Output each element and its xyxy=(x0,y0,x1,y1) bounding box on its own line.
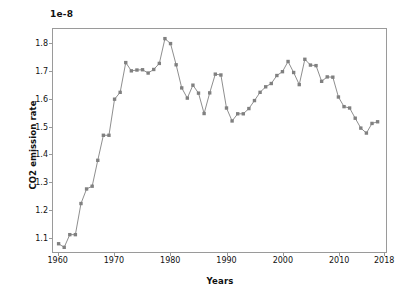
x-tick-mark xyxy=(339,253,340,256)
data-point-marker xyxy=(286,60,289,63)
data-point-marker xyxy=(96,159,99,162)
y-tick-mark xyxy=(49,71,52,72)
x-axis-title: Years xyxy=(52,276,388,286)
data-point-marker xyxy=(169,42,172,45)
data-point-marker xyxy=(63,246,66,249)
x-tick-label: 1990 xyxy=(216,256,236,265)
chart-figure: 1e-8 CO2 emission rate 1.11.21.31.41.51.… xyxy=(0,0,403,297)
x-tick-label: 2018 xyxy=(374,256,394,265)
data-point-marker xyxy=(225,106,228,109)
x-tick-mark xyxy=(58,253,59,256)
x-tick-label: 2010 xyxy=(329,256,349,265)
data-point-marker xyxy=(236,112,239,115)
co2-emission-line xyxy=(59,39,378,248)
data-point-marker xyxy=(214,72,217,75)
data-point-marker xyxy=(74,233,77,236)
y-tick-label: 1.8 xyxy=(35,39,48,48)
data-point-marker xyxy=(208,91,211,94)
data-point-marker xyxy=(365,131,368,134)
line-series-svg xyxy=(53,29,386,252)
y-tick-mark xyxy=(49,43,52,44)
data-point-marker xyxy=(152,68,155,71)
y-tick-mark xyxy=(49,127,52,128)
data-point-marker xyxy=(270,82,273,85)
y-tick-label: 1.4 xyxy=(35,150,48,159)
x-tick-mark xyxy=(283,253,284,256)
data-point-marker xyxy=(309,63,312,66)
data-point-marker xyxy=(130,69,133,72)
data-point-marker xyxy=(303,58,306,61)
data-point-marker xyxy=(258,91,261,94)
axis-offset-label: 1e-8 xyxy=(50,9,73,19)
y-tick-mark xyxy=(49,182,52,183)
x-tick-mark xyxy=(384,253,385,256)
x-tick-label: 2000 xyxy=(273,256,293,265)
data-point-marker xyxy=(158,62,161,65)
data-point-marker xyxy=(141,68,144,71)
data-point-marker xyxy=(191,83,194,86)
data-point-marker xyxy=(197,91,200,94)
y-tick-mark xyxy=(49,210,52,211)
y-axis-tick-labels: 1.11.21.31.41.51.61.71.8 xyxy=(0,0,48,297)
data-point-marker xyxy=(174,63,177,66)
data-point-marker xyxy=(298,83,301,86)
y-tick-label: 1.6 xyxy=(35,94,48,103)
x-tick-mark xyxy=(114,253,115,256)
data-point-marker xyxy=(107,134,110,137)
data-point-marker xyxy=(230,119,233,122)
data-point-marker xyxy=(292,71,295,74)
data-point-marker xyxy=(68,233,71,236)
data-point-marker xyxy=(247,107,250,110)
x-tick-label: 1970 xyxy=(104,256,124,265)
data-point-marker xyxy=(326,75,329,78)
y-tick-mark xyxy=(49,154,52,155)
data-point-marker xyxy=(376,120,379,123)
x-tick-mark xyxy=(170,253,171,256)
data-point-marker xyxy=(337,95,340,98)
x-tick-label: 1980 xyxy=(160,256,180,265)
y-tick-mark xyxy=(49,99,52,100)
data-point-marker xyxy=(342,105,345,108)
data-point-marker xyxy=(320,80,323,83)
data-point-marker xyxy=(348,106,351,109)
data-point-marker xyxy=(186,96,189,99)
data-point-marker xyxy=(135,68,138,71)
data-point-marker xyxy=(90,185,93,188)
data-point-marker xyxy=(219,73,222,76)
data-point-marker xyxy=(253,99,256,102)
data-point-marker xyxy=(331,75,334,78)
data-point-marker xyxy=(354,117,357,120)
y-tick-label: 1.1 xyxy=(35,233,48,242)
data-point-marker xyxy=(146,71,149,74)
data-point-marker xyxy=(124,61,127,64)
data-point-marker xyxy=(180,86,183,89)
data-point-marker xyxy=(163,37,166,40)
data-point-marker xyxy=(242,112,245,115)
data-point-marker xyxy=(202,112,205,115)
x-tick-mark xyxy=(227,253,228,256)
data-point-marker xyxy=(79,202,82,205)
y-tick-label: 1.3 xyxy=(35,178,48,187)
y-tick-label: 1.2 xyxy=(35,205,48,214)
x-tick-label: 1960 xyxy=(47,256,67,265)
data-point-marker xyxy=(264,85,267,88)
data-point-marker xyxy=(102,134,105,137)
data-point-marker xyxy=(281,70,284,73)
data-point-marker xyxy=(275,74,278,77)
data-point-marker xyxy=(359,126,362,129)
co2-emission-markers xyxy=(57,37,379,249)
data-point-marker xyxy=(113,98,116,101)
data-point-marker xyxy=(370,122,373,125)
data-point-marker xyxy=(118,91,121,94)
y-tick-mark xyxy=(49,238,52,239)
data-point-marker xyxy=(314,64,317,67)
y-tick-label: 1.5 xyxy=(35,122,48,131)
plot-area xyxy=(52,28,387,253)
y-tick-label: 1.7 xyxy=(35,67,48,76)
data-point-marker xyxy=(57,242,60,245)
data-point-marker xyxy=(85,187,88,190)
